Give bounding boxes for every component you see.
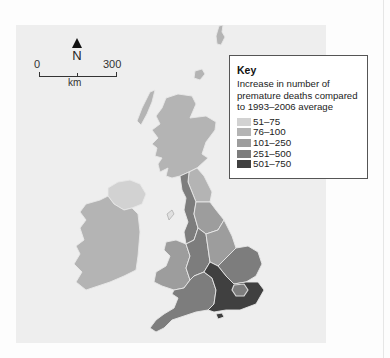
key-swatch <box>237 160 251 168</box>
key-title: Key <box>237 64 361 76</box>
scale-bar: 0 300 km <box>34 58 104 88</box>
region-isle-of-wight <box>216 313 224 319</box>
region-republic-of-ireland <box>74 196 140 290</box>
region-isle-of-man <box>167 210 174 220</box>
key-swatch <box>237 128 251 136</box>
scale-max: 300 <box>103 58 121 70</box>
key-item: 101–250 <box>237 138 361 149</box>
key-label: 251–500 <box>253 149 291 159</box>
key-swatch <box>237 150 251 158</box>
page-edge <box>383 0 384 358</box>
key-label: 76–100 <box>253 127 286 137</box>
region-hebrides <box>137 90 155 125</box>
key-description: Increase in number of premature deaths c… <box>237 78 361 113</box>
key-item: 501–750 <box>237 159 361 170</box>
region-orkney <box>194 69 205 80</box>
region-scotland <box>152 94 216 178</box>
scale-unit: km <box>68 77 81 88</box>
key-label: 51–75 <box>253 117 280 127</box>
scale-midpoint <box>77 73 78 76</box>
region-shetland <box>216 25 225 45</box>
key-swatch <box>237 139 251 147</box>
scale-zero: 0 <box>34 58 40 70</box>
map-key: Key Increase in number of premature deat… <box>229 55 368 179</box>
north-arrow-icon <box>72 38 82 48</box>
key-label: 501–750 <box>253 159 291 169</box>
key-items: 51–75 76–100 101–250 251–500 501–750 <box>237 117 361 170</box>
region-london <box>232 284 248 296</box>
region-wales <box>154 240 190 290</box>
key-label: 101–250 <box>253 138 291 148</box>
key-swatch <box>237 118 251 126</box>
